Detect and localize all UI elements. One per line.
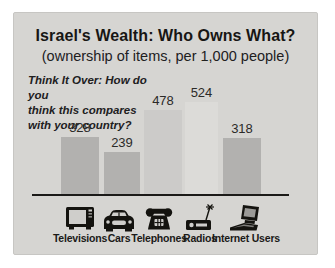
x-axis-baseline <box>32 194 289 196</box>
category-label-internet-users: Internet Users <box>211 232 281 244</box>
value-label-telephones: 478 <box>143 93 183 108</box>
value-label-radios: 524 <box>182 85 222 100</box>
bar-cars <box>104 152 140 195</box>
bar-radios <box>185 102 218 195</box>
bar-telephones <box>144 110 182 195</box>
television-icon <box>60 203 100 232</box>
value-label-televisions: 328 <box>60 120 100 135</box>
bar-internet-users <box>223 138 261 195</box>
radio-icon <box>180 203 220 232</box>
chart-card: Israel's Wealth: Who Owns What? (ownersh… <box>13 12 318 255</box>
telephone-icon <box>139 203 179 232</box>
value-label-internet-users: 318 <box>222 121 262 136</box>
bar-plot-area: 328Televisions239Cars478Telephones524Rad… <box>14 13 317 254</box>
value-label-cars: 239 <box>102 135 142 150</box>
computer-icon <box>226 203 266 232</box>
figure-canvas: Israel's Wealth: Who Owns What? (ownersh… <box>0 0 335 268</box>
car-icon <box>99 203 139 232</box>
bar-televisions <box>61 137 99 195</box>
